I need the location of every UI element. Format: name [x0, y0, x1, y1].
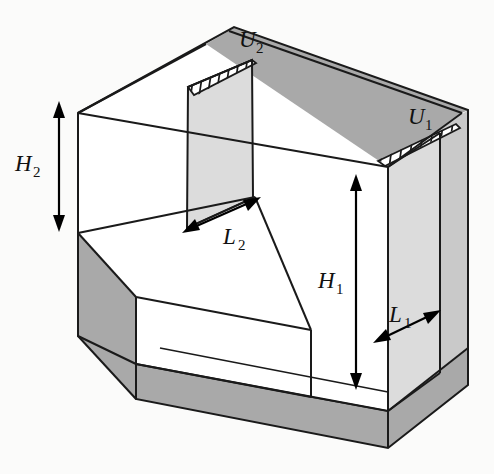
figure-root: H 2 H 1 L 2 L 1 U 2 U 1	[0, 0, 494, 474]
label-L1-base: L	[388, 302, 402, 327]
label-L1-subscript: 1	[404, 315, 412, 331]
label-H1-subscript: 1	[336, 281, 344, 297]
dimension-H2	[53, 101, 65, 232]
label-U1-subscript: 1	[425, 117, 433, 133]
label-L2-subscript: 2	[238, 237, 246, 253]
label-H2-subscript: 2	[33, 164, 41, 180]
label-H2: H 2	[14, 151, 41, 180]
right-inner-wall-face	[388, 133, 440, 411]
label-U1-base: U	[408, 104, 426, 129]
label-H2-base: H	[14, 151, 33, 176]
label-U2: U 2	[239, 27, 264, 56]
label-L2-base: L	[222, 224, 236, 249]
label-U2-subscript: 2	[256, 40, 264, 56]
arrowhead-up	[53, 101, 65, 118]
label-U2-base: U	[239, 27, 257, 52]
label-H1-base: H	[317, 268, 336, 293]
isometric-diagram-svg: H 2 H 1 L 2 L 1 U 2 U 1	[0, 0, 494, 474]
arrowhead-down	[53, 215, 65, 232]
